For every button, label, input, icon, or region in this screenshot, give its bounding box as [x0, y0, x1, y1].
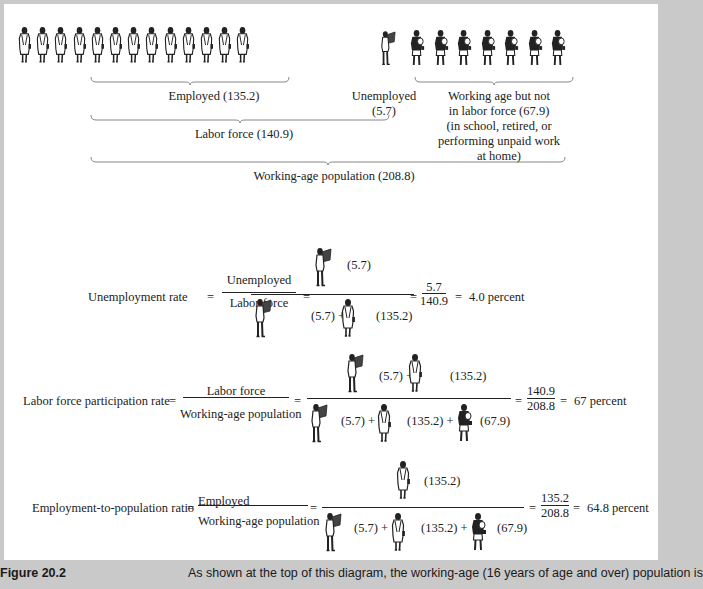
employed-icon — [163, 26, 178, 64]
eq2-equals-2: = — [294, 394, 301, 409]
not-in-labor-force-icon — [527, 29, 544, 67]
employed-icon — [72, 26, 87, 64]
employed-icon — [90, 26, 105, 64]
eq3-result-numerator: 135.2 — [538, 491, 572, 506]
eq1-numerator: Unemployed — [219, 273, 299, 288]
labor-force-brace — [90, 114, 390, 124]
not-in-labor-force-icon — [480, 29, 497, 67]
employed-icon — [340, 297, 356, 339]
eq1-word-fraction: Unemployed — [219, 273, 299, 288]
eq3-equals-1: = — [187, 501, 194, 516]
employed-icon — [17, 26, 32, 64]
eq1-word-fraction-bar — [222, 292, 296, 293]
eq2-lhs: Labor force participation rate — [23, 394, 170, 409]
not-in-labor-force-icon — [456, 402, 474, 444]
eq3-result: 64.8 percent — [587, 501, 649, 516]
eq1-equals-1: = — [207, 290, 214, 305]
eq3-equals-3: = — [529, 501, 536, 516]
employed-icon — [144, 26, 159, 64]
nilf-label-line4: performing unpaid work — [434, 134, 564, 149]
employed-icon — [217, 26, 232, 64]
eq1-equals-4: = — [455, 290, 462, 305]
employed-icon — [108, 26, 123, 64]
nilf-label-line3: (in school, retired, or — [434, 119, 564, 134]
not-in-labor-force-label: Working age but not in labor force (67.9… — [434, 89, 564, 164]
eq3-picture-fraction-bar — [322, 507, 524, 508]
employed-icon — [35, 26, 50, 64]
eq2-result: 67 percent — [574, 394, 626, 409]
eq2-equals-4: = — [560, 394, 567, 409]
unemployed-label-line2: (5.7) — [349, 104, 419, 119]
unemployed-icon — [254, 297, 272, 339]
not-in-labor-force-icon — [470, 511, 488, 553]
unemployed-label-line1: Unemployed — [349, 89, 419, 104]
employed-icon — [390, 511, 406, 553]
eq2-den-value-1: (5.7) + — [341, 414, 375, 429]
eq2-num-value-2: (135.2) — [450, 369, 486, 384]
eq3-equals-4: = — [573, 501, 580, 516]
employed-brace — [90, 76, 290, 86]
eq3-num-value: (135.2) — [424, 474, 460, 489]
unemployed-icon — [324, 511, 342, 553]
unemployed-icon — [346, 352, 364, 394]
eq2-den-value-3: (67.9) — [480, 414, 510, 429]
employed-icon — [235, 26, 250, 64]
eq2-den-value-2: (135.2) + — [407, 414, 454, 429]
eq2-equals-3: = — [515, 394, 522, 409]
employed-icon — [376, 402, 392, 444]
nilf-label-line1: Working age but not — [434, 89, 564, 104]
eq3-equals-2: = — [310, 501, 317, 516]
not-in-labor-force-brace — [414, 76, 574, 86]
eq1-den-value-2: (135.2) — [376, 309, 412, 324]
eq2-result-numerator: 140.9 — [524, 384, 558, 399]
employed-icon — [181, 26, 196, 64]
eq1-lhs: Unemployment rate — [88, 290, 188, 305]
eq3-den-value-3: (67.9) — [497, 521, 527, 536]
eq3-den-value-2: (135.2) + — [421, 521, 468, 536]
caption-text: As shown at the top of this diagram, the… — [188, 566, 703, 580]
employed-icon — [395, 459, 411, 501]
eq1-picture-fraction-bar — [251, 294, 414, 295]
eq1-equals-2: = — [303, 290, 310, 305]
diagram-panel: Employed (135.2) Unemployed (5.7) Workin… — [4, 4, 658, 560]
nilf-label-line5: at home) — [434, 149, 564, 164]
eq2-denominator: Working-age population — [180, 407, 292, 422]
eq3-denominator: Working-age population — [198, 514, 310, 529]
not-in-labor-force-icon — [550, 29, 567, 67]
not-in-labor-force-icon — [433, 29, 450, 67]
unemployed-icon — [310, 402, 328, 444]
not-in-labor-force-icon — [503, 29, 520, 67]
employed-label: Employed (135.2) — [144, 89, 284, 104]
unemployed-icon — [314, 246, 332, 288]
employed-icon — [407, 352, 423, 394]
eq1-equals-3: = — [410, 290, 417, 305]
employed-icon — [199, 26, 214, 64]
eq1-result-denominator: 140.9 — [419, 294, 449, 309]
eq2-picture-fraction-bar — [307, 398, 511, 399]
employed-icon — [53, 26, 68, 64]
eq2-word-fraction-bar — [183, 397, 289, 398]
eq3-word-fraction-bar — [198, 505, 308, 506]
figure-number: Figure 20.2 — [0, 566, 66, 580]
eq3-den-value-1: (5.7) + — [354, 521, 388, 536]
eq1-num-value: (5.7) — [347, 258, 371, 273]
employed-icon — [126, 26, 141, 64]
unemployed-figure — [380, 29, 398, 69]
eq1-result: 4.0 percent — [469, 290, 525, 305]
nilf-label-line2: in labor force (67.9) — [434, 104, 564, 119]
eq3-result-denominator: 208.8 — [538, 506, 572, 521]
figure-caption: Figure 20.2 As shown at the top of this … — [0, 561, 665, 589]
not-in-labor-force-figures-row — [409, 29, 579, 69]
eq3-lhs: Employment-to-population ratio — [32, 501, 194, 516]
labor-force-label: Labor force (140.9) — [184, 127, 304, 142]
not-in-labor-force-icon — [456, 29, 473, 67]
eq2-equals-1: = — [169, 394, 176, 409]
eq2-result-denominator: 208.8 — [524, 399, 558, 414]
unemployed-label: Unemployed (5.7) — [349, 89, 419, 119]
not-in-labor-force-icon — [409, 29, 426, 67]
working-age-label: Working-age population (208.8) — [244, 169, 424, 184]
unemployed-icon — [380, 29, 396, 67]
employed-figures-row — [17, 26, 287, 66]
